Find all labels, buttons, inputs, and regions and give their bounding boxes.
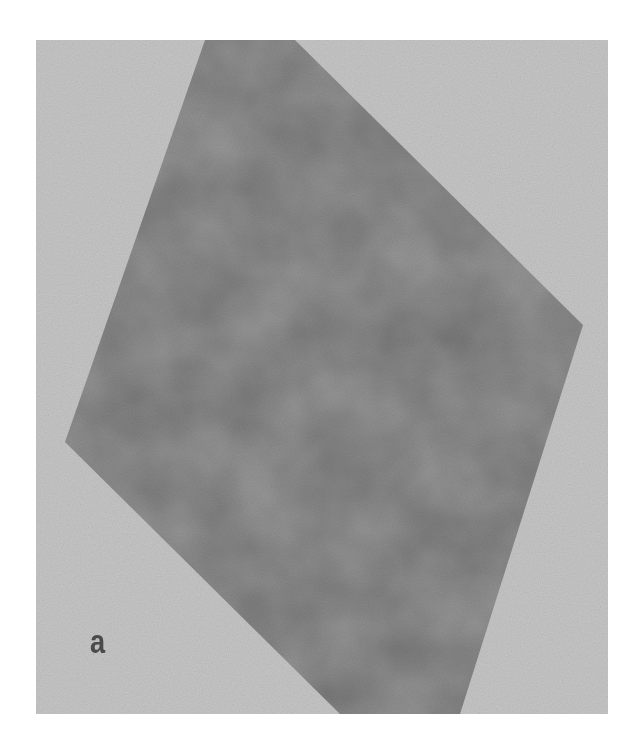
micrograph-panel — [36, 40, 608, 714]
panel-label: a — [90, 622, 105, 661]
micrograph-image — [36, 40, 608, 714]
